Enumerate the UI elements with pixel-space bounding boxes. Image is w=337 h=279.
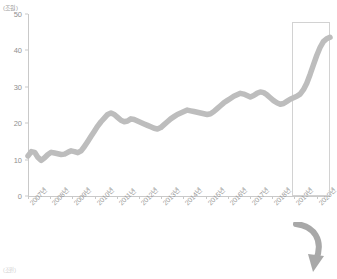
footer-unit-label: (조원) — [3, 266, 16, 274]
series-line — [28, 37, 330, 160]
callout-arrow-icon — [286, 222, 334, 277]
